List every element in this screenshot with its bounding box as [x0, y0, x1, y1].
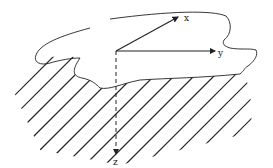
y-axis-label: y	[217, 48, 224, 58]
diagram-canvas: x y z	[0, 0, 273, 168]
x-axis-label: x	[184, 13, 189, 23]
surface-outline	[35, 12, 256, 88]
z-axis-label: z	[113, 157, 118, 167]
hatch-pattern	[0, 40, 273, 168]
x-axis-arrow	[116, 17, 178, 51]
